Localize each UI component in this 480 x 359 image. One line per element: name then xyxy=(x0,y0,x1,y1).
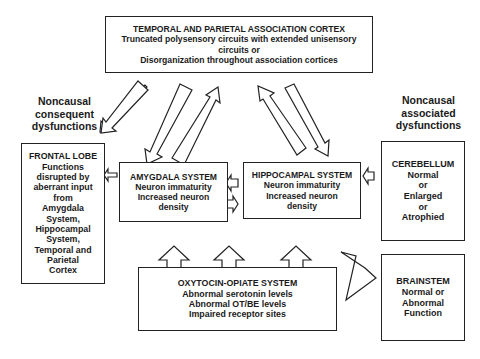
cerebellum-box: CEREBELLUM Normal or Enlarged or Atrophi… xyxy=(381,141,465,241)
frontal-line: Amygdala xyxy=(42,203,84,213)
brainstem-box: BRAINSTEM Normal or Abnormal Function xyxy=(381,254,465,341)
cortex-line-1: Truncated polysensory circuits with exte… xyxy=(122,34,357,44)
oxytocin-title: OXYTOCIN-OPIATE SYSTEM xyxy=(178,278,297,288)
frontal-line: disrupted by xyxy=(37,172,90,182)
cerebellum-line: Normal xyxy=(407,170,438,181)
brainstem-line: Abnormal xyxy=(402,298,444,309)
frontal-line: Cortex xyxy=(49,265,77,275)
temporal-parietal-cortex-box: TEMPORAL AND PARIETAL ASSOCIATION CORTEX… xyxy=(105,16,373,73)
cerebellum-title: CEREBELLUM xyxy=(392,159,455,170)
cortex-line-3: Disorganization throughout association c… xyxy=(140,55,338,65)
frontal-line: FRONTAL LOBE xyxy=(29,151,97,161)
cerebellum-line: Atrophied xyxy=(402,212,445,223)
frontal-lobe-box: FRONTAL LOBE Functions disrupted by aber… xyxy=(21,143,105,284)
frontal-line: Parietal xyxy=(47,255,79,265)
amygdala-line: Increased neuron xyxy=(138,192,210,202)
oxytocin-line: Abnormal OT/BE levels xyxy=(189,299,286,309)
right-label-line-3: dysfunctions xyxy=(386,119,471,132)
cerebellum-line: or xyxy=(419,202,428,213)
frontal-line: aberrant input xyxy=(33,182,92,192)
hippocampal-line: Increased neuron xyxy=(266,191,338,201)
amygdala-title: AMYGDALA SYSTEM xyxy=(130,172,217,182)
cerebellum-line: or xyxy=(419,180,428,191)
arrow-cerebellum-to-hippocampal-icon xyxy=(363,168,374,184)
arrow-brainstem-to-hippocampal-icon xyxy=(341,252,376,300)
oxytocin-line: Abnormal serotonin levels xyxy=(182,289,292,299)
noncausal-consequent-label: Noncausal consequent dysfunctions xyxy=(22,95,107,133)
noncausal-associated-label: Noncausal associated dysfunctions xyxy=(386,94,471,132)
frontal-line: from xyxy=(53,193,73,203)
arrow-cortex-to-frontal-shape xyxy=(101,81,148,133)
hippocampal-line: Neuron immaturity xyxy=(264,180,340,190)
cerebellum-line: Enlarged xyxy=(404,191,443,202)
frontal-line: Functions xyxy=(42,162,84,172)
left-label-line-3: dysfunctions xyxy=(22,120,107,133)
left-label-line-1: Noncausal xyxy=(22,95,107,108)
arrow-amygdala-to-frontal-icon xyxy=(104,169,117,181)
cortex-title: TEMPORAL AND PARIETAL ASSOCIATION CORTEX xyxy=(133,24,345,34)
hippocampal-system-box: HIPPOCAMPAL SYSTEM Neuron immaturity Inc… xyxy=(243,162,361,219)
frontal-line: Hippocampal xyxy=(35,224,90,234)
hippocampal-title: HIPPOCAMPAL SYSTEM xyxy=(252,170,352,180)
amygdala-line: density xyxy=(158,202,188,212)
amygdala-system-box: AMYGDALA SYSTEM Neuron immaturity Increa… xyxy=(119,162,228,222)
frontal-line: System, xyxy=(46,214,80,224)
oxytocin-line: Impaired receptor sites xyxy=(189,309,286,319)
amygdala-line: Neuron immaturity xyxy=(135,182,211,192)
left-label-line-2: consequent xyxy=(22,108,107,121)
cortex-line-2: circuits or xyxy=(218,45,260,55)
right-label-line-2: associated xyxy=(386,107,471,120)
frontal-line: System, xyxy=(46,234,80,244)
brainstem-line: Function xyxy=(404,308,442,319)
right-label-line-1: Noncausal xyxy=(386,94,471,107)
frontal-line: Temporal and xyxy=(34,245,91,255)
oxytocin-opiate-system-box: OXYTOCIN-OPIATE SYSTEM Abnormal serotoni… xyxy=(138,267,337,331)
brainstem-line: Normal or xyxy=(402,287,445,298)
brainstem-title: BRAINSTEM xyxy=(396,276,450,287)
hippocampal-line: density xyxy=(287,201,317,211)
